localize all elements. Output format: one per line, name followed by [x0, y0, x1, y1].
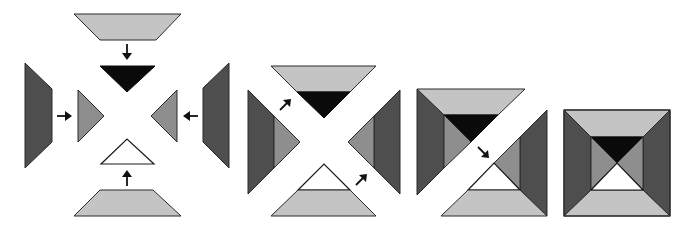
bottom-light-trapezoid	[74, 190, 181, 216]
white-triangle	[101, 139, 154, 164]
right-medium-triangle	[151, 90, 177, 142]
arrow-diagonal-down-right-icon	[478, 147, 489, 158]
left-dark-trapezoid	[25, 63, 52, 168]
stage-1-separate-pieces	[25, 14, 229, 216]
top-light-trapezoid	[74, 14, 181, 40]
right-dark-trapezoid	[203, 63, 229, 168]
arrow-down-icon	[122, 44, 132, 60]
top-unit-light	[271, 66, 376, 92]
arrow-up-icon	[122, 170, 132, 186]
left-medium-triangle	[78, 90, 104, 142]
stage-2-four-triangle-units	[248, 66, 400, 216]
left-unit-dark	[248, 90, 274, 194]
right-unit-medium	[348, 116, 374, 168]
arrow-right-icon	[57, 111, 72, 121]
bottom-unit-white	[298, 164, 350, 190]
arrow-diagonal-up-right-icon	[280, 99, 291, 110]
arrow-left-icon	[183, 111, 198, 121]
left-unit-medium	[274, 116, 300, 168]
stage-3-two-half-units	[417, 89, 547, 216]
bottom-unit-light	[271, 190, 376, 216]
black-triangle	[100, 66, 155, 92]
quilt-assembly-diagram	[0, 0, 697, 233]
stage-4-finished-block	[564, 110, 670, 216]
right-unit-dark	[374, 90, 400, 194]
top-unit-black	[297, 92, 350, 118]
arrow-diagonal-up-right-icon	[356, 174, 367, 185]
